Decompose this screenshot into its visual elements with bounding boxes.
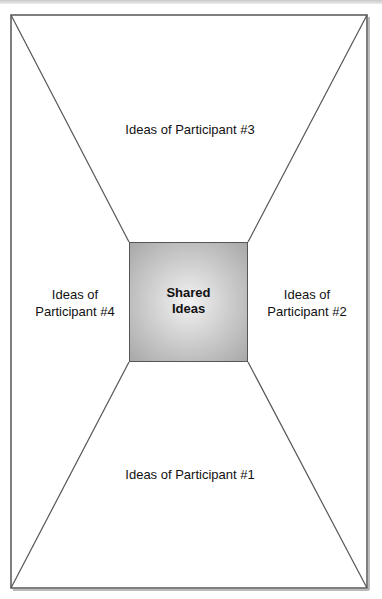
participant-2-line1: Ideas of xyxy=(252,286,362,303)
shared-ideas-box: Shared Ideas xyxy=(129,242,248,362)
participant-2-label: Ideas of Participant #2 xyxy=(252,286,362,320)
participant-4-line1: Ideas of xyxy=(20,286,130,303)
participant-2-line2: Participant #2 xyxy=(252,303,362,320)
participant-4-line2: Participant #4 xyxy=(20,303,130,320)
shared-line1: Shared xyxy=(130,285,247,301)
shared-line2: Ideas xyxy=(130,301,247,317)
participant-4-label: Ideas of Participant #4 xyxy=(20,286,130,320)
participant-1-label: Ideas of Participant #1 xyxy=(100,466,280,483)
shared-ideas-label: Shared Ideas xyxy=(130,285,247,317)
participant-3-label: Ideas of Participant #3 xyxy=(100,121,280,138)
